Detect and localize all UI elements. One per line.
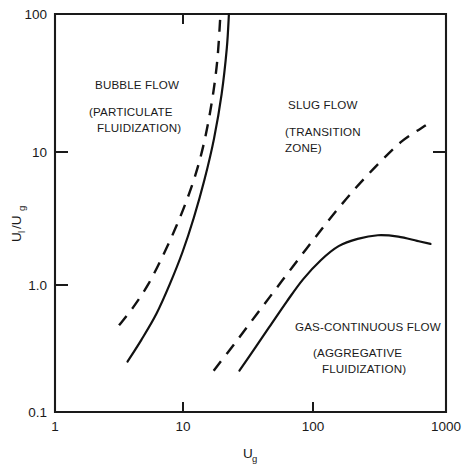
x-axis-title: U g bbox=[243, 446, 257, 464]
y-tick-label-0.1: 0.1 bbox=[28, 405, 47, 420]
data-curves bbox=[119, 14, 430, 371]
region-annotation-slug-flow: SLUG FLOW (TRANSITION ZONE) bbox=[285, 98, 361, 154]
x-axis-ticks bbox=[183, 14, 313, 412]
x-tick-label-1: 1 bbox=[51, 419, 59, 434]
region-annotation-gas-continuous-flow: GAS-CONTINUOUS FLOW (AGGREGATIVE FLUIDIZ… bbox=[295, 320, 441, 375]
curve-bubble-slug-lower-boundary bbox=[128, 14, 229, 362]
x-axis-title-sub-g: g bbox=[252, 453, 257, 464]
x-tick-label-1000: 1000 bbox=[431, 419, 461, 434]
x-tick-label-100: 100 bbox=[302, 419, 325, 434]
gas-continuous-label: GAS-CONTINUOUS FLOW bbox=[295, 320, 441, 333]
curve-slug-gas-continuous-upper-boundary bbox=[214, 125, 426, 370]
y-tick-label-1: 1.0 bbox=[28, 278, 47, 293]
fluidization-label-1: FLUIDIZATION) bbox=[97, 121, 181, 134]
log-log-flow-regime-chart: 1 10 100 1000 100 10 1.0 0.1 U l /U g U … bbox=[0, 0, 468, 472]
x-tick-labels: 1 10 100 1000 bbox=[51, 419, 461, 434]
y-tick-label-10: 10 bbox=[32, 145, 47, 160]
y-axis-title-sub-g: g bbox=[16, 206, 27, 211]
bubble-flow-label: BUBBLE FLOW bbox=[95, 78, 179, 91]
slug-flow-label: SLUG FLOW bbox=[288, 98, 358, 111]
y-tick-labels: 100 10 1.0 0.1 bbox=[24, 7, 47, 420]
fluidization-label-2: FLUIDIZATION) bbox=[322, 362, 406, 375]
zone-label: ZONE) bbox=[285, 141, 322, 154]
transition-label: (TRANSITION bbox=[285, 125, 361, 138]
curve-bubble-slug-upper-boundary bbox=[119, 14, 220, 325]
figure-container: 1 10 100 1000 100 10 1.0 0.1 U l /U g U … bbox=[0, 0, 468, 472]
particulate-label: (PARTICULATE bbox=[89, 105, 173, 118]
x-tick-label-10: 10 bbox=[175, 419, 190, 434]
aggregative-label: (AGGREGATIVE bbox=[313, 346, 402, 359]
y-axis-title-slash-U: /U bbox=[9, 216, 24, 230]
y-axis-title-sub-l: l bbox=[16, 231, 27, 233]
y-tick-label-100: 100 bbox=[24, 7, 47, 22]
region-annotation-bubble-flow: BUBBLE FLOW (PARTICULATE FLUIDIZATION) bbox=[89, 78, 181, 134]
y-axis-title: U l /U g bbox=[9, 206, 27, 242]
